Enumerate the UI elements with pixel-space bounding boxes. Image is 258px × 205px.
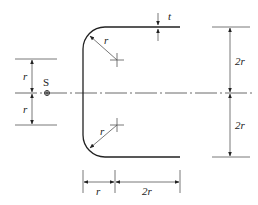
bottom-right-label: 2r bbox=[142, 185, 153, 197]
shear-center-label: S bbox=[43, 76, 49, 88]
channel-section bbox=[83, 27, 180, 157]
left-upper-label: r bbox=[23, 70, 28, 82]
right-lower-label: 2r bbox=[235, 119, 246, 131]
bottom-left-label: r bbox=[96, 185, 101, 197]
diagram-canvas: r r t 2r 2r r r S r 2r bbox=[0, 0, 258, 205]
right-upper-label: 2r bbox=[235, 55, 246, 67]
bottom-radius-label: r bbox=[100, 125, 105, 137]
shear-center-marker bbox=[45, 91, 50, 96]
thickness-label: t bbox=[168, 10, 172, 22]
top-radius-label: r bbox=[104, 34, 109, 46]
left-lower-label: r bbox=[23, 103, 28, 115]
